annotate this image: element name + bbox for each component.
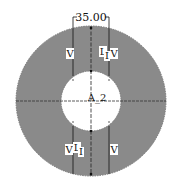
cross-section-diagram: 35.00 V L I V A_2 V L I V: [0, 0, 183, 187]
label-v-top-left: V: [65, 48, 74, 59]
dimension-35: 35.00: [73, 11, 109, 24]
label-v-top-right: V: [109, 48, 118, 59]
label-subscript-top-right: I: [105, 50, 109, 61]
label-v-bottom-right: V: [109, 144, 118, 155]
centerline-dot: [90, 27, 93, 30]
label-subscript-bottom-left: I: [79, 146, 83, 157]
center-label: A_2: [87, 92, 107, 104]
dimension-label: 35.00: [75, 11, 107, 24]
centerline-dot: [90, 70, 93, 73]
centerline-dot: [90, 173, 93, 176]
centerline-dot: [90, 130, 93, 133]
label-v-bottom-left: V: [64, 144, 73, 155]
